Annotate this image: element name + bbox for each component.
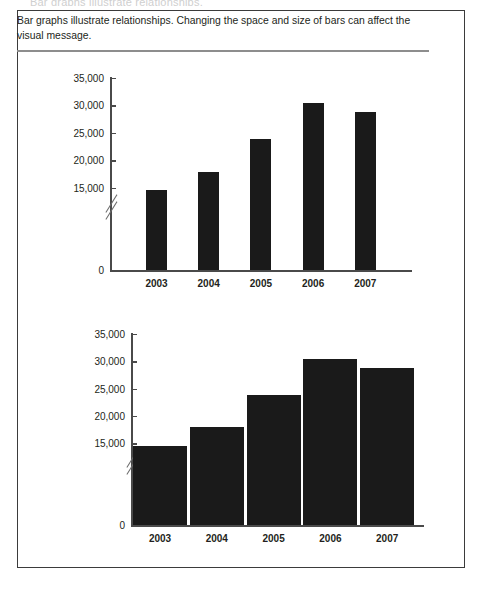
x-axis-tick-label: 2003 <box>130 533 190 544</box>
y-axis-tick-label: 20,000 <box>69 410 125 421</box>
x-axis-line <box>131 525 424 527</box>
y-axis-tick <box>132 389 137 390</box>
bar <box>247 395 301 525</box>
y-axis-tick <box>132 443 137 444</box>
bar-chart-wide-bars: 015,00020,00025,00030,00035,000200320042… <box>0 0 482 592</box>
bar <box>133 446 187 525</box>
y-axis-tick-label: 30,000 <box>69 356 125 367</box>
figure-page: Bar graphs illustrate relationships. Bar… <box>0 0 482 592</box>
y-axis-tick <box>132 334 137 335</box>
y-axis-tick-label: 0 <box>69 520 125 531</box>
y-axis-tick-label: 35,000 <box>69 329 125 340</box>
y-axis-tick-label: 15,000 <box>69 438 125 449</box>
y-axis-tick <box>132 361 137 362</box>
y-axis-tick-label: 25,000 <box>69 383 125 394</box>
x-axis-tick-label: 2007 <box>357 533 417 544</box>
bar <box>190 427 244 525</box>
bar <box>360 368 414 525</box>
bar <box>303 359 357 525</box>
x-axis-tick-label: 2006 <box>300 533 360 544</box>
x-axis-tick-label: 2005 <box>244 533 304 544</box>
y-axis-tick <box>132 416 137 417</box>
x-axis-tick-label: 2004 <box>187 533 247 544</box>
